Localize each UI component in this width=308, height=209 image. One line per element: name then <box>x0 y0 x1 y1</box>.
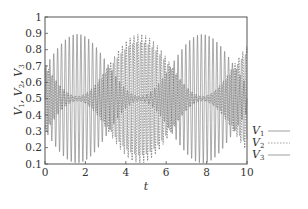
y-tick-label: 0.2 <box>25 141 42 153</box>
y-tick-label: 1 <box>35 11 42 23</box>
y-tick-label: 0.5 <box>25 92 42 104</box>
y-tick-label: 0.3 <box>25 125 42 137</box>
x-axis-label: t <box>144 180 149 193</box>
x-tick-label: 4 <box>122 166 129 178</box>
y-tick-label: 0.7 <box>25 60 42 72</box>
y-tick-label: 0.4 <box>25 109 42 121</box>
y-tick-label: 0.9 <box>25 27 42 39</box>
x-tick-label: 0 <box>42 166 49 178</box>
y-axis-label: V1, V2, V3 <box>12 64 26 115</box>
legend-item-v3: V3 <box>252 148 290 162</box>
x-tick-label: 2 <box>82 166 89 178</box>
x-tick-label: 10 <box>240 166 253 178</box>
chart: 02468100.10.20.30.40.50.60.70.80.91 t V1… <box>0 0 308 209</box>
x-tick-label: 8 <box>203 166 210 178</box>
legend: V1 V2 V3 <box>252 124 290 162</box>
y-tick-label: 0.6 <box>25 76 42 88</box>
plot-series <box>45 34 247 163</box>
y-tick-label: 0.8 <box>25 43 42 55</box>
y-tick-label: 0.1 <box>25 158 42 170</box>
x-tick-label: 6 <box>163 166 170 178</box>
svg-text:V3: V3 <box>252 148 264 162</box>
